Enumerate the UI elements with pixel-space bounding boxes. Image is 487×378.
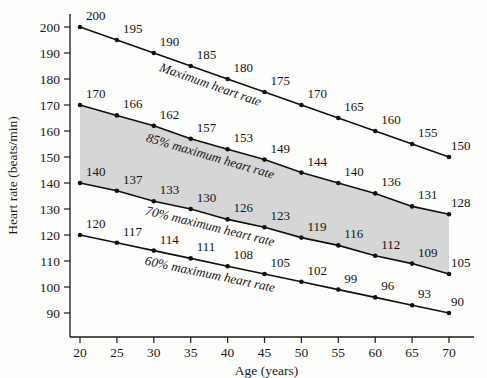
data-point bbox=[447, 212, 452, 217]
x-axis-tick-label: 70 bbox=[442, 345, 456, 360]
data-point bbox=[410, 303, 415, 308]
data-point-label: 109 bbox=[418, 245, 438, 260]
data-point-label: 140 bbox=[86, 164, 106, 179]
data-point bbox=[152, 124, 157, 129]
data-point bbox=[78, 103, 83, 108]
data-point-label: 112 bbox=[381, 237, 400, 252]
data-point-label: 140 bbox=[344, 164, 364, 179]
data-point bbox=[188, 64, 193, 69]
data-point bbox=[115, 241, 120, 246]
data-point-label: 170 bbox=[307, 86, 327, 101]
data-point-label: 195 bbox=[123, 21, 142, 36]
data-point bbox=[410, 204, 415, 209]
data-point bbox=[188, 137, 193, 142]
data-point bbox=[373, 129, 378, 134]
data-point bbox=[447, 155, 452, 160]
data-point bbox=[225, 264, 230, 269]
data-point bbox=[78, 233, 83, 238]
data-point-label: 200 bbox=[86, 8, 106, 23]
data-point-label: 102 bbox=[307, 263, 327, 278]
y-axis-tick-label: 120 bbox=[40, 228, 61, 243]
data-point bbox=[262, 157, 267, 162]
data-point-label: 119 bbox=[307, 219, 326, 234]
data-point bbox=[336, 181, 341, 186]
data-point-label: 131 bbox=[418, 187, 438, 202]
data-point-label: 180 bbox=[234, 60, 254, 75]
x-axis-tick-label: 35 bbox=[184, 345, 198, 360]
data-point bbox=[152, 248, 157, 253]
data-point bbox=[410, 142, 415, 147]
data-point-label: 165 bbox=[344, 99, 364, 114]
data-point-label: 93 bbox=[418, 286, 431, 301]
data-point bbox=[262, 272, 267, 277]
data-point-label: 90 bbox=[451, 294, 464, 309]
data-point bbox=[373, 191, 378, 196]
data-point bbox=[115, 38, 120, 43]
y-axis-tick-label: 200 bbox=[40, 20, 61, 35]
data-point-label: 136 bbox=[381, 174, 401, 189]
y-axis-tick-label: 150 bbox=[40, 150, 61, 165]
data-point-label: 120 bbox=[86, 216, 106, 231]
data-point bbox=[336, 116, 341, 121]
data-point bbox=[410, 261, 415, 266]
y-axis-tick-label: 170 bbox=[40, 98, 61, 113]
x-axis-tick-label: 20 bbox=[73, 345, 87, 360]
data-point-label: 130 bbox=[197, 190, 217, 205]
data-point bbox=[336, 243, 341, 248]
x-axis-tick-label: 55 bbox=[332, 345, 346, 360]
data-point-label: 116 bbox=[344, 226, 364, 241]
x-axis-tick-label: 30 bbox=[147, 345, 161, 360]
data-point bbox=[373, 295, 378, 300]
data-point bbox=[299, 235, 304, 240]
data-point bbox=[299, 280, 304, 285]
data-point bbox=[373, 254, 378, 259]
data-point-label: 114 bbox=[160, 232, 180, 247]
data-point-label: 108 bbox=[234, 247, 254, 262]
data-point bbox=[78, 181, 83, 186]
data-point bbox=[152, 51, 157, 56]
x-axis-tick-label: 65 bbox=[405, 345, 419, 360]
x-axis-title: Age (years) bbox=[235, 363, 298, 378]
data-point-label: 111 bbox=[197, 239, 216, 254]
y-axis-tick-label: 190 bbox=[40, 46, 61, 61]
y-axis-tick-label: 160 bbox=[40, 124, 61, 139]
data-point-label: 133 bbox=[160, 182, 180, 197]
data-point-label: 153 bbox=[234, 130, 254, 145]
data-point-label: 170 bbox=[86, 86, 106, 101]
x-axis-tick-label: 50 bbox=[295, 345, 309, 360]
data-point-label: 150 bbox=[451, 138, 471, 153]
data-point-label: 117 bbox=[123, 224, 143, 239]
x-axis-tick-label: 45 bbox=[258, 345, 272, 360]
data-point-label: 149 bbox=[271, 141, 291, 156]
y-axis-tick-label: 110 bbox=[40, 254, 60, 269]
data-point-label: 105 bbox=[271, 255, 291, 270]
data-point-label: 137 bbox=[123, 172, 143, 187]
x-axis-tick-label: 40 bbox=[221, 345, 235, 360]
data-point-label: 160 bbox=[381, 112, 401, 127]
data-point-label: 123 bbox=[271, 208, 291, 223]
y-axis-title: Heart rate (beats/min) bbox=[5, 116, 20, 234]
data-point bbox=[262, 90, 267, 95]
y-axis-tick-label: 140 bbox=[40, 176, 61, 191]
data-point bbox=[447, 272, 452, 277]
y-axis-tick-label: 90 bbox=[47, 306, 61, 321]
data-point-label: 126 bbox=[234, 200, 254, 215]
data-point-label: 190 bbox=[160, 34, 180, 49]
data-point bbox=[188, 207, 193, 212]
data-point bbox=[225, 77, 230, 82]
data-point-label: 185 bbox=[197, 47, 217, 62]
data-point-label: 128 bbox=[451, 195, 471, 210]
data-point bbox=[299, 170, 304, 175]
data-point bbox=[299, 103, 304, 108]
y-axis-tick-label: 100 bbox=[40, 280, 61, 295]
data-point bbox=[262, 225, 267, 230]
chart-figure: 9010011012013014015016017018019020020253… bbox=[0, 0, 487, 378]
data-point bbox=[115, 189, 120, 194]
y-axis-tick-label: 180 bbox=[40, 72, 61, 87]
data-point-label: 157 bbox=[197, 120, 217, 135]
data-point-label: 166 bbox=[123, 96, 143, 111]
data-point-label: 144 bbox=[307, 154, 327, 169]
data-point-label: 155 bbox=[418, 125, 438, 140]
x-axis-tick-label: 25 bbox=[110, 345, 124, 360]
data-point bbox=[78, 25, 83, 30]
